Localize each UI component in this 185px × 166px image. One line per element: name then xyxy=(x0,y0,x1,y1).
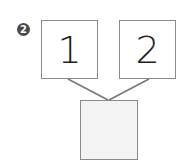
problem-number-badge: 2 xyxy=(17,23,30,36)
number-box-second: 2 xyxy=(119,20,176,79)
number-box-second-value: 2 xyxy=(135,28,159,72)
number-box-first-value: 1 xyxy=(57,28,81,72)
connector-line-left xyxy=(68,79,108,100)
connector-line-right xyxy=(109,79,149,100)
answer-box[interactable] xyxy=(80,100,138,160)
number-box-first: 1 xyxy=(41,20,98,79)
